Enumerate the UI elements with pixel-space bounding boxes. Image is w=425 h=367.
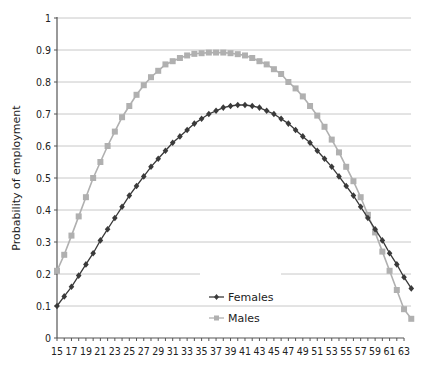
square-marker (293, 85, 299, 91)
y-tick-label: 0.8 (36, 76, 51, 88)
square-marker (141, 82, 147, 88)
square-marker (170, 58, 176, 64)
y-tick-label: 0.2 (36, 268, 51, 280)
x-tick-label: 49 (297, 345, 309, 357)
square-marker (329, 137, 335, 143)
diamond-marker (228, 103, 234, 110)
square-marker (336, 149, 342, 155)
square-marker (97, 159, 103, 165)
square-marker (61, 252, 67, 258)
square-marker (177, 55, 183, 61)
x-tick-label: 41 (239, 345, 251, 357)
x-tick-label: 29 (152, 345, 164, 357)
legend: FemalesMales (209, 291, 274, 325)
diamond-marker (206, 111, 212, 118)
x-tick-label: 25 (123, 345, 135, 357)
square-marker (264, 61, 270, 67)
x-tick-label: 51 (311, 345, 323, 357)
square-marker (242, 52, 248, 58)
square-marker (191, 51, 197, 57)
square-marker (278, 71, 284, 77)
x-tick-label: 39 (225, 345, 237, 357)
diamond-marker (278, 116, 284, 123)
x-tick-label: 37 (210, 345, 222, 357)
square-marker (68, 233, 74, 239)
square-marker (105, 143, 111, 149)
legend-label: Males (228, 312, 260, 325)
x-tick-label: 59 (369, 345, 381, 357)
square-marker (134, 92, 140, 98)
square-marker (235, 51, 241, 57)
square-marker (322, 124, 328, 130)
square-marker (394, 287, 400, 293)
y-tick-label: 0.4 (36, 204, 51, 216)
square-marker (387, 268, 393, 274)
diamond-marker (271, 111, 277, 118)
y-tick-label: 0.9 (36, 44, 51, 56)
diamond-marker (220, 104, 226, 111)
square-marker (350, 178, 356, 184)
square-marker (199, 50, 205, 56)
square-marker (300, 93, 306, 99)
square-marker (54, 268, 60, 274)
y-tick-label: 0.7 (36, 108, 51, 120)
square-marker (206, 50, 212, 56)
square-marker (314, 113, 320, 119)
x-tick-label: 35 (196, 345, 208, 357)
square-marker (83, 194, 89, 200)
diamond-marker (249, 103, 255, 110)
x-tick-label: 63 (398, 345, 410, 357)
square-marker (401, 306, 407, 312)
x-tick-label: 21 (94, 345, 106, 357)
square-marker (343, 164, 349, 170)
square-marker (220, 50, 226, 56)
y-tick-label: 0 (45, 332, 51, 344)
diamond-marker (199, 116, 205, 123)
square-marker (358, 194, 364, 200)
x-tick-label: 53 (326, 345, 338, 357)
series-females (54, 102, 414, 310)
x-tick-label: 55 (340, 345, 352, 357)
square-marker (155, 68, 161, 74)
diamond-marker (235, 102, 241, 109)
diamond-marker (264, 108, 270, 115)
x-tick-label: 27 (138, 345, 150, 357)
y-tick-label: 1 (45, 12, 51, 24)
diamond-marker (242, 102, 248, 109)
square-marker (408, 316, 414, 322)
square-marker (162, 61, 168, 67)
series-males (54, 50, 414, 322)
y-tick-label: 0.3 (36, 236, 51, 248)
y-axis-label: Probability of employment (10, 105, 23, 251)
x-tick-label: 57 (355, 345, 367, 357)
y-tick-label: 0.5 (36, 172, 51, 184)
square-marker (126, 103, 132, 109)
square-marker (307, 103, 313, 109)
square-marker (112, 129, 118, 135)
x-tick-label: 61 (384, 345, 396, 357)
square-marker (249, 55, 255, 61)
series-line (57, 53, 411, 319)
x-tick-label: 31 (167, 345, 179, 357)
legend-diamond-marker (214, 294, 219, 300)
x-tick-label: 47 (282, 345, 294, 357)
diamond-marker (213, 108, 219, 115)
square-marker (213, 50, 219, 56)
y-tick-label: 0.1 (36, 300, 51, 312)
line-chart: 00.10.20.30.40.50.60.70.80.9115171921232… (0, 0, 425, 367)
gridlines (57, 18, 411, 306)
legend-square-marker (214, 316, 219, 321)
square-marker (90, 175, 96, 181)
square-marker (119, 114, 125, 120)
x-tick-label: 45 (268, 345, 280, 357)
series-line (57, 105, 411, 306)
square-marker (228, 50, 234, 56)
square-marker (271, 66, 277, 72)
x-tick-label: 33 (181, 345, 193, 357)
diamond-marker (257, 104, 263, 111)
square-marker (256, 58, 262, 64)
x-tick-label: 23 (109, 345, 121, 357)
square-marker (76, 213, 82, 219)
x-tick-label: 19 (80, 345, 92, 357)
x-tick-label: 43 (253, 345, 265, 357)
